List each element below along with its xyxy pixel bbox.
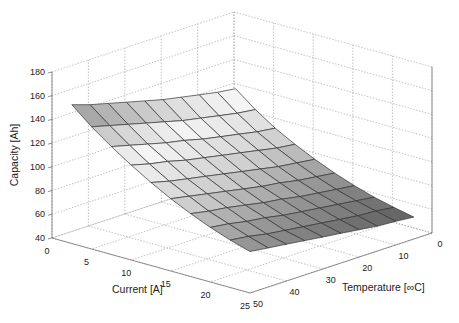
y-tick-label: 0 xyxy=(437,239,442,249)
x-tick-label: 10 xyxy=(121,268,131,278)
y-tick-label: 10 xyxy=(399,251,409,261)
y-tick-label: 40 xyxy=(289,287,299,297)
z-tick-label: 40 xyxy=(35,233,45,243)
y-tick-label: 30 xyxy=(326,275,336,285)
z-tick-label: 100 xyxy=(30,162,45,172)
z-tick-label: 120 xyxy=(30,138,45,148)
x-tick-label: 0 xyxy=(44,246,49,256)
z-tick-label: 180 xyxy=(30,67,45,77)
surface-chart: 4060801001201401601800510152025010203040… xyxy=(0,0,459,323)
capacity-surface xyxy=(72,89,414,252)
y-tick-label: 50 xyxy=(253,299,263,309)
x-axis-label: Current [A] xyxy=(112,283,163,295)
y-tick-label: 20 xyxy=(362,263,372,273)
z-axis-label: Capacity [Ah] xyxy=(8,124,20,187)
y-axis-label: Temperature [∞C] xyxy=(342,281,425,293)
z-tick-label: 160 xyxy=(30,91,45,101)
z-tick-label: 140 xyxy=(30,114,45,124)
x-tick-label: 25 xyxy=(240,301,250,311)
x-tick-label: 20 xyxy=(200,290,210,300)
z-tick-label: 60 xyxy=(35,209,45,219)
z-tick-label: 80 xyxy=(35,186,45,196)
x-tick-label: 5 xyxy=(84,257,89,267)
